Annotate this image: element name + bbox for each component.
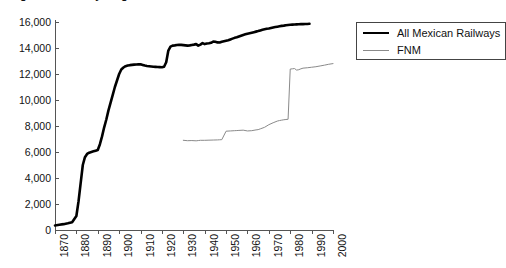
series-line-fnm [183,64,333,141]
chart-legend: All Mexican Railways FNM [356,22,506,60]
legend-label: FNM [397,44,421,56]
legend-label: All Mexican Railways [397,27,500,39]
legend-entry-fnm: FNM [363,42,421,58]
legend-swatch-line-icon [363,50,389,51]
legend-swatch-line-icon [363,32,389,34]
legend-entry-all-mexican-railways: All Mexican Railways [363,25,500,41]
series-line-all-mexican-railways [55,24,309,226]
